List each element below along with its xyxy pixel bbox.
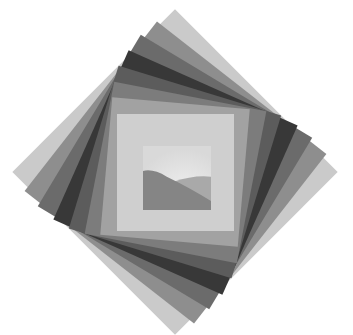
- landscape-image-icon: [143, 146, 211, 210]
